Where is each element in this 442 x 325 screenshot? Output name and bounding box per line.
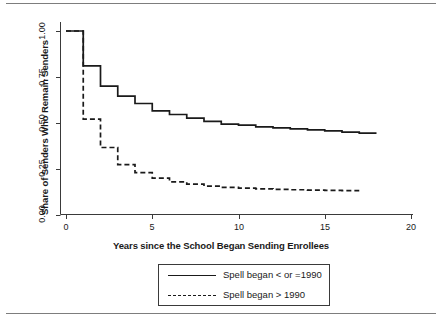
- chart-legend: Spell began < or =1990 Spell began > 199…: [158, 264, 330, 306]
- legend-item-1: Spell began > 1990: [159, 285, 331, 306]
- data-series-layer: [66, 31, 377, 191]
- legend-label-0: Spell began < or =1990: [223, 269, 322, 280]
- y-axis-ticks: [56, 32, 61, 216]
- figure-container: Share of Senders Who Remain Senders Year…: [0, 0, 442, 325]
- legend-item-0: Spell began < or =1990: [159, 265, 331, 286]
- axis-lines: [61, 22, 414, 215]
- x-axis-ticks: [67, 215, 412, 220]
- series-line-0: [66, 31, 377, 133]
- series-line-1: [66, 31, 359, 191]
- legend-key-solid-icon: [168, 275, 216, 276]
- legend-label-1: Spell began > 1990: [223, 289, 305, 300]
- legend-key-dashed-icon: [168, 295, 216, 296]
